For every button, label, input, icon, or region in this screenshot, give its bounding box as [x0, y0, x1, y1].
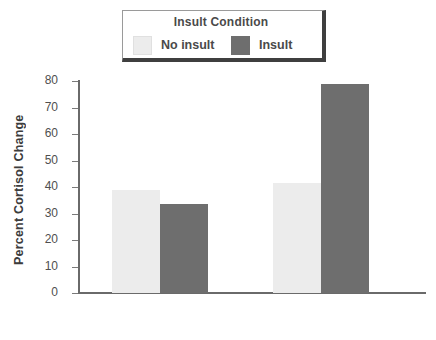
y-tick-label-40: 40 [18, 179, 58, 193]
legend-label-insult: Insult [259, 38, 292, 52]
y-tick-label-30: 30 [18, 206, 58, 220]
y-tick-label-20: 20 [18, 232, 58, 246]
legend-swatch-insult [231, 36, 250, 55]
y-tick-50 [72, 161, 78, 162]
plot-area: 01020304050607080NorthernersSoutherners [78, 81, 424, 293]
legend-entries: No insult Insult [123, 35, 319, 57]
y-tick-20 [72, 240, 78, 241]
y-tick-10 [72, 267, 78, 268]
legend-title: Insult Condition [123, 15, 319, 29]
bar-southerners-no-insult [273, 183, 321, 293]
legend-entry-insult: Insult [231, 35, 292, 55]
y-tick-40 [72, 187, 78, 188]
legend-swatch-no-insult [133, 36, 152, 55]
legend-entry-no-insult: No insult [133, 35, 214, 55]
y-tick-70 [72, 108, 78, 109]
y-tick-60 [72, 134, 78, 135]
cortisol-bar-chart: Insult Condition No insult Insult Percen… [0, 0, 436, 340]
y-tick-label-70: 70 [18, 100, 58, 114]
y-tick-30 [72, 214, 78, 215]
bar-southerners-insult [321, 84, 369, 293]
y-tick-label-80: 80 [18, 73, 58, 87]
y-tick-80 [72, 81, 78, 82]
bar-northerners-insult [160, 204, 208, 293]
bar-northerners-no-insult [112, 190, 160, 293]
legend-label-no-insult: No insult [161, 38, 214, 52]
y-tick-label-0: 0 [18, 285, 58, 299]
chart-legend: Insult Condition No insult Insult [122, 10, 326, 62]
y-tick-label-60: 60 [18, 126, 58, 140]
y-tick-0 [72, 293, 78, 294]
y-tick-label-10: 10 [18, 259, 58, 273]
y-tick-label-50: 50 [18, 153, 58, 167]
